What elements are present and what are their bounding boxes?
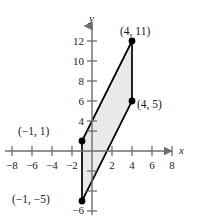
x-tick-label-neg4: −4 [46, 160, 58, 171]
data-point-4-11 [129, 38, 136, 45]
x-tick-label-neg6: −6 [26, 160, 38, 171]
x-tick-label-2: 2 [109, 160, 115, 171]
point-label-4-5: (4, 5) [137, 99, 162, 111]
y-axis-label: y [89, 13, 94, 24]
x-tick-label-neg2: −2 [66, 160, 78, 171]
x-axis-label: x [179, 145, 184, 156]
y-tick-label-neg6: −6 [72, 205, 84, 216]
x-tick-label-neg8: −8 [6, 160, 18, 171]
data-point-4-5 [129, 98, 136, 105]
x-tick-label-8: 8 [169, 160, 175, 171]
point-label-4-11: (4, 11) [120, 26, 150, 38]
y-tick-label-8: 8 [79, 76, 85, 87]
x-tick-label-4: 4 [129, 160, 135, 171]
data-point-neg1-1 [79, 138, 86, 145]
y-tick-label-4: 4 [79, 116, 85, 127]
plot-canvas [0, 0, 197, 223]
y-tick-label-12: 12 [73, 36, 84, 47]
y-tick-label-10: 10 [73, 56, 84, 67]
y-tick-label-6: 6 [79, 96, 85, 107]
x-tick-label-6: 6 [149, 160, 155, 171]
coordinate-plane-figure: −8 −6 −4 −2 2 4 6 8 12 10 8 6 4 −6 x y (… [0, 0, 197, 223]
point-label-neg1-neg5: (−1, −5) [12, 194, 50, 206]
point-label-neg1-1: (−1, 1) [18, 126, 49, 138]
